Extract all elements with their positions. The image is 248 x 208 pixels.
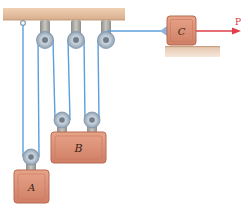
movable-pulley-b-left — [54, 112, 70, 134]
fixed-pulley-2 — [68, 32, 85, 49]
pulley-system-diagram: B A C P — [0, 0, 248, 208]
force-p-label: P — [235, 17, 241, 27]
ground-surface — [165, 46, 220, 57]
rope-b-left-to-p2 — [68, 40, 70, 120]
block-b: B — [51, 132, 106, 163]
block-c-label: C — [178, 26, 186, 37]
diagram-canvas: B A C P — [0, 0, 248, 208]
block-b-label: B — [73, 142, 82, 155]
force-p-arrow: P — [196, 17, 241, 35]
block-a-label: A — [27, 182, 35, 193]
rope-a-to-p1 — [38, 40, 39, 157]
ceiling-beam — [3, 8, 125, 21]
rope-connector-c — [160, 26, 167, 36]
rope-p2-to-b-right — [84, 40, 85, 120]
fixed-pulley-1 — [37, 32, 54, 49]
movable-pulley-a — [23, 149, 39, 172]
fixed-pulley-3 — [98, 32, 115, 49]
rope-b-right-to-p3 — [98, 40, 99, 120]
block-c: C — [167, 16, 196, 45]
anchor-hook — [21, 21, 26, 26]
rope-p1-to-b-left — [53, 40, 55, 120]
block-a: A — [14, 170, 49, 203]
movable-pulley-b-right — [84, 112, 100, 134]
